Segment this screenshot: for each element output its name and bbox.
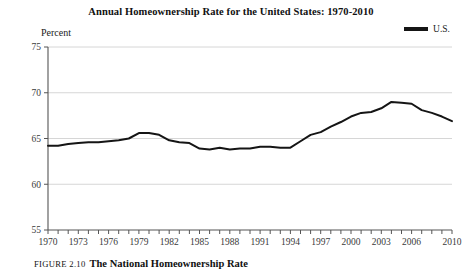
x-tick-label: 1997: [311, 237, 330, 247]
figure-container: Annual Homeownership Rate for the United…: [0, 0, 462, 277]
line-chart-plot: 5560657075197019731976197919821985198819…: [0, 0, 462, 252]
data-series-u-s: [48, 102, 452, 150]
figure-caption-number: Figure 2.10: [34, 259, 86, 269]
x-tick-label: 2010: [443, 237, 462, 247]
figure-caption-text: The National Homeownership Rate: [90, 258, 248, 269]
x-tick-label: 1982: [160, 237, 179, 247]
y-tick-label: 65: [32, 134, 42, 144]
x-tick-label: 1991: [251, 237, 270, 247]
y-tick-label: 70: [32, 88, 42, 98]
x-tick-label: 1994: [281, 237, 300, 247]
x-tick-label: 1973: [69, 237, 88, 247]
x-tick-label: 2003: [372, 237, 391, 247]
figure-caption: Figure 2.10The National Homeownership Ra…: [34, 258, 248, 269]
y-tick-label: 60: [32, 180, 42, 190]
y-tick-label: 55: [32, 225, 42, 235]
x-tick-label: 2000: [342, 237, 361, 247]
x-tick-label: 2006: [402, 237, 421, 247]
y-tick-label: 75: [32, 42, 42, 52]
x-tick-label: 1985: [190, 237, 209, 247]
x-tick-label: 1970: [39, 237, 58, 247]
x-tick-label: 1979: [129, 237, 148, 247]
x-tick-label: 1988: [220, 237, 239, 247]
x-tick-label: 1976: [99, 237, 118, 247]
